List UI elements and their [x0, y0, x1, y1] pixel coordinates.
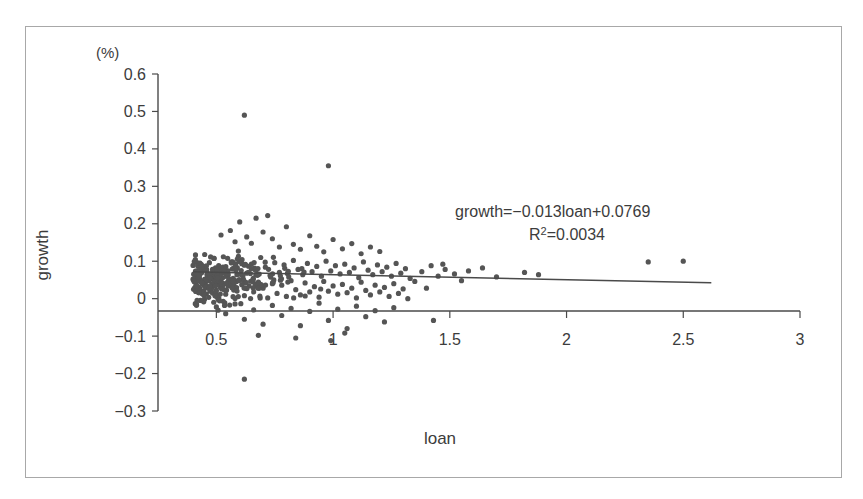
data-point [235, 256, 240, 261]
data-point [237, 219, 242, 224]
data-point [342, 262, 347, 267]
data-point [293, 287, 298, 292]
data-point [314, 264, 319, 269]
data-point [215, 308, 220, 313]
data-point [258, 255, 263, 260]
data-point [330, 237, 335, 242]
data-point [242, 377, 247, 382]
data-point [211, 300, 216, 305]
data-point [206, 295, 211, 300]
data-point [646, 259, 651, 264]
data-point [377, 249, 382, 254]
data-point [229, 260, 234, 265]
data-point [321, 279, 326, 284]
data-point [258, 295, 263, 300]
data-point [236, 278, 241, 283]
y-axis-title: growth [33, 229, 52, 280]
y-tick-label: 0.1 [124, 253, 146, 270]
data-point [321, 249, 326, 254]
data-point [326, 289, 331, 294]
data-point [270, 236, 275, 241]
data-point [249, 241, 254, 246]
data-point [314, 244, 319, 249]
data-point [271, 280, 276, 285]
data-point [265, 295, 270, 300]
data-point [274, 291, 279, 296]
data-point [403, 266, 408, 271]
data-point [219, 286, 224, 291]
data-point [396, 291, 401, 296]
data-point [370, 272, 375, 277]
data-point [401, 286, 406, 291]
data-point [335, 292, 340, 297]
data-point [368, 244, 373, 249]
scatter-plot: 0.60.50.40.30.20.10−0.1−0.2−0.3 0.511.52… [0, 0, 863, 499]
data-point [260, 322, 265, 327]
data-point [536, 272, 541, 277]
data-point [288, 306, 293, 311]
axes-group [158, 74, 800, 411]
data-point [278, 278, 283, 283]
data-point [234, 288, 239, 293]
data-point [244, 280, 249, 285]
data-point [424, 286, 429, 291]
data-point [459, 278, 464, 283]
data-point [230, 266, 235, 271]
data-point [265, 213, 270, 218]
data-point [250, 285, 255, 290]
data-point [242, 317, 247, 322]
data-point [284, 294, 289, 299]
chart-root: 0.60.50.40.30.20.10−0.1−0.2−0.3 0.511.52… [0, 0, 863, 499]
y-axis-unit-label: (%) [96, 44, 119, 61]
data-point [440, 262, 445, 267]
data-point [279, 313, 284, 318]
data-point [241, 285, 246, 290]
x-tick-label: 2 [562, 331, 571, 348]
data-point [255, 266, 260, 271]
x-tick-label: 0.5 [205, 331, 227, 348]
data-point [293, 335, 298, 340]
data-point [480, 265, 485, 270]
data-point [419, 269, 424, 274]
y-tick-label: 0 [137, 290, 146, 307]
data-point [244, 234, 249, 239]
y-tick-label: 0.2 [124, 215, 146, 232]
data-point [228, 228, 233, 233]
data-point [391, 305, 396, 310]
data-point [252, 260, 257, 265]
data-point [194, 283, 199, 288]
data-point [373, 308, 378, 313]
data-point [223, 311, 228, 316]
data-point [204, 263, 209, 268]
data-point [212, 293, 217, 298]
data-point [268, 274, 273, 279]
y-tick-label: 0.3 [124, 178, 146, 195]
data-point [291, 258, 296, 263]
data-point [279, 283, 284, 288]
data-point [192, 259, 197, 264]
data-point [377, 289, 382, 294]
data-point [366, 268, 371, 273]
data-point [285, 279, 290, 284]
data-point [349, 241, 354, 246]
data-point [242, 113, 247, 118]
data-point [272, 260, 277, 265]
data-point [522, 270, 527, 275]
data-point [681, 259, 686, 264]
data-point [199, 280, 204, 285]
data-point [266, 267, 271, 272]
data-point [340, 282, 345, 287]
data-point [197, 290, 202, 295]
data-point [312, 284, 317, 289]
data-point [363, 314, 368, 319]
r-squared-annotation: R2=0.0034 [529, 225, 605, 243]
y-tick-label: 0.4 [124, 140, 146, 157]
data-point [342, 331, 347, 336]
data-point [213, 288, 218, 293]
y-tick-label: −0.1 [114, 328, 146, 345]
regression-equation-annotation: growth=−0.013loan+0.0769 [455, 203, 650, 220]
y-axis-ticks [152, 74, 158, 411]
data-point [218, 232, 223, 237]
x-axis-ticks [216, 311, 800, 318]
data-point [242, 262, 247, 267]
